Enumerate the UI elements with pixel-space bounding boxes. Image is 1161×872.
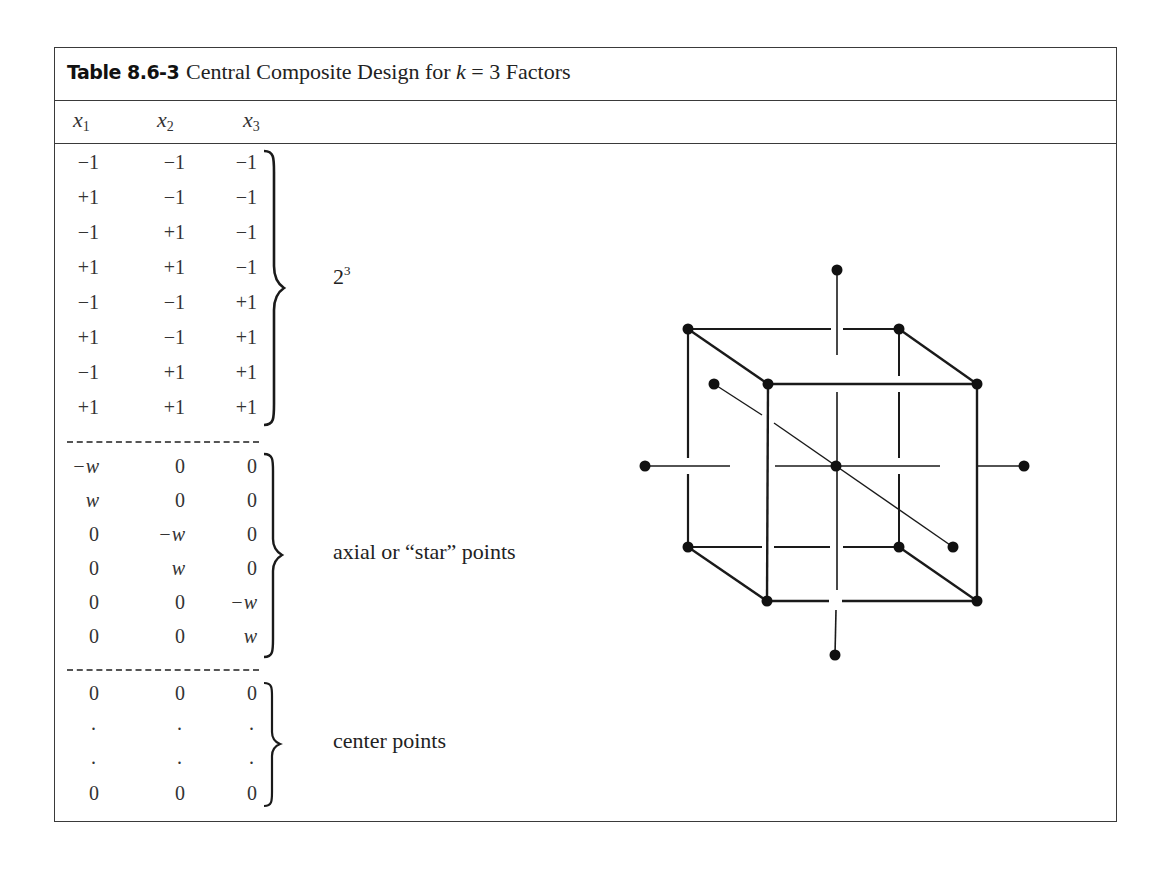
axial-point	[1019, 461, 1030, 472]
axial-point	[709, 379, 720, 390]
axial-point	[830, 650, 841, 661]
corner-point	[763, 379, 774, 390]
corner-point	[683, 542, 694, 553]
center-point	[831, 461, 842, 472]
corner-point	[972, 379, 983, 390]
axial-point	[640, 461, 651, 472]
axial-point	[948, 542, 959, 553]
corner-point	[683, 324, 694, 335]
corner-point	[894, 542, 905, 553]
corner-point	[894, 324, 905, 335]
axial-point	[832, 265, 843, 276]
corner-point	[762, 596, 773, 607]
corner-point	[972, 596, 983, 607]
central-composite-cube-diagram	[0, 0, 1161, 872]
